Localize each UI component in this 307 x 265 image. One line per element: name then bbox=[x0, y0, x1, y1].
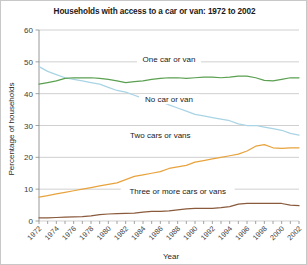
x-axis-tick-label: 1992 bbox=[199, 224, 217, 242]
y-axis-tick-label: 30 bbox=[24, 122, 33, 131]
y-axis-title: Percentage of households bbox=[7, 83, 16, 176]
y-axis-tick-label: 10 bbox=[24, 185, 33, 194]
x-axis-tick-label: 1984 bbox=[129, 224, 147, 242]
x-axis-tick-label: 1974 bbox=[43, 224, 61, 242]
y-axis-tick-label: 0 bbox=[29, 217, 34, 226]
x-axis-tick-label: 1980 bbox=[95, 224, 113, 242]
x-axis-tick-label: 1990 bbox=[181, 224, 199, 242]
x-axis-tick-label: 1994 bbox=[216, 224, 234, 242]
x-axis-tick-label: 1988 bbox=[164, 224, 182, 242]
series-label: Two cars or vans bbox=[130, 131, 190, 140]
data-line-three-or-more-cars-or-vans bbox=[39, 203, 299, 217]
series-label: One car or van bbox=[143, 55, 196, 64]
x-axis-tick-label: 1986 bbox=[147, 224, 165, 242]
x-axis-tick-label: 1996 bbox=[233, 224, 251, 242]
x-axis-tick-label: 1998 bbox=[251, 224, 269, 242]
chart-figure: Households with access to a car or van: … bbox=[0, 0, 307, 265]
y-axis-tick-label: 60 bbox=[24, 26, 33, 35]
x-axis-tick-label: 2000 bbox=[268, 224, 286, 242]
x-axis-tick-label: 1982 bbox=[112, 224, 130, 242]
x-axis-tick-label: 1976 bbox=[60, 224, 78, 242]
series-label: Three or more cars or vans bbox=[129, 187, 225, 196]
y-axis-tick-label: 50 bbox=[24, 58, 33, 67]
x-axis-tick-label: 2002 bbox=[285, 224, 303, 242]
y-axis-tick-label: 20 bbox=[24, 153, 33, 162]
chart-plot-area: 0102030405060 19721974197619781980198219… bbox=[1, 1, 307, 265]
x-axis-ticks-group: 1972197419761978198019821984198619881990… bbox=[25, 221, 303, 242]
x-axis-title: Year bbox=[163, 252, 180, 261]
x-axis-tick-label: 1978 bbox=[77, 224, 95, 242]
x-axis-tick-label: 1972 bbox=[25, 224, 43, 242]
y-axis-ticks-group: 0102030405060 bbox=[24, 26, 39, 226]
series-label: No car or van bbox=[145, 95, 193, 104]
y-axis-tick-label: 40 bbox=[24, 90, 33, 99]
